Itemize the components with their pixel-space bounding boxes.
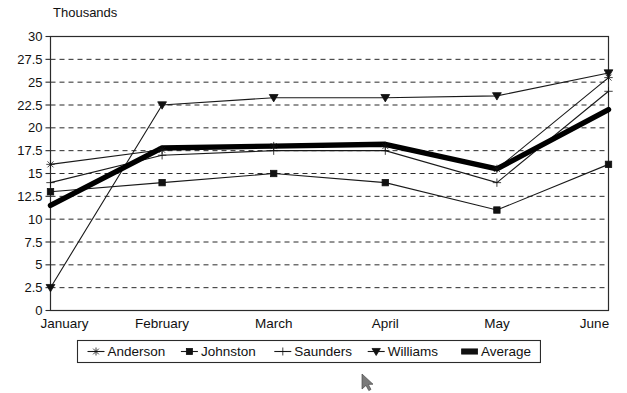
thick-bar-marker-icon — [462, 349, 478, 354]
star-marker-icon — [493, 165, 501, 173]
y-tick-label: 17.5 — [17, 143, 42, 158]
star-marker-icon — [92, 348, 100, 356]
y-tick-labels-group: 02.557.51012.51517.52022.52527.530 — [17, 29, 42, 318]
x-tick-label: May — [484, 316, 510, 331]
y-tick-label: 27.5 — [17, 52, 42, 67]
x-tick-labels-group: JanuaryFebruaryMarchAprilMayJune — [40, 316, 609, 331]
y-tick-label: 15 — [28, 166, 42, 181]
y-tick-label: 20 — [28, 120, 42, 135]
line-chart: Thousands 02.557.51012.51517.52022.52527… — [0, 0, 627, 393]
y-tickmarks-group — [46, 37, 51, 311]
y-tick-label: 25 — [28, 75, 42, 90]
x-tick-label: March — [255, 316, 293, 331]
square-marker-icon — [605, 161, 611, 167]
y-tick-label: 5 — [35, 257, 42, 272]
square-marker-icon — [494, 207, 500, 213]
legend-label: Average — [481, 344, 531, 359]
gridlines-group — [51, 59, 609, 287]
y-tick-label: 7.5 — [24, 235, 42, 250]
plus-marker-icon — [46, 178, 54, 186]
legend-label: Saunders — [294, 344, 352, 359]
x-tick-label: April — [372, 316, 399, 331]
y-axis-title: Thousands — [53, 5, 118, 20]
mouse-pointer-icon — [362, 374, 373, 391]
y-tick-label: 12.5 — [17, 189, 42, 204]
series-line-average — [51, 110, 609, 206]
x-tick-label: February — [135, 316, 189, 331]
y-tick-label: 30 — [28, 29, 42, 44]
chart-legend[interactable]: AndersonJohnstonSaundersWilliamsAverage — [78, 341, 541, 363]
square-marker-icon — [382, 179, 388, 185]
legend-label: Johnston — [201, 344, 256, 359]
square-marker-icon — [159, 179, 165, 185]
chart-container: Thousands 02.557.51012.51517.52022.52527… — [0, 0, 627, 393]
square-marker-icon — [271, 170, 277, 176]
y-tick-label: 10 — [28, 212, 42, 227]
x-tick-label: January — [40, 316, 88, 331]
data-markers-group — [46, 70, 613, 292]
y-tick-label: 2.5 — [24, 280, 42, 295]
y-tick-label: 22.5 — [17, 98, 42, 113]
square-marker-icon — [47, 189, 53, 195]
plus-marker-icon — [381, 146, 389, 154]
x-tick-label: June — [580, 316, 609, 331]
star-marker-icon — [46, 160, 54, 168]
square-marker-icon — [186, 348, 192, 354]
legend-label: Anderson — [108, 344, 166, 359]
legend-label: Williams — [388, 344, 438, 359]
series-line-johnston — [51, 164, 609, 210]
